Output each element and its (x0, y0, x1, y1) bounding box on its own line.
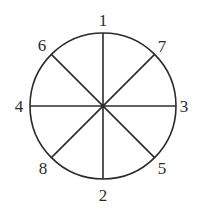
label-bottom-right: 5 (158, 159, 167, 178)
sector-circle-diagram: 1 7 3 5 2 8 4 6 (0, 0, 198, 211)
label-bottom: 2 (99, 186, 108, 205)
label-left: 4 (15, 97, 24, 116)
label-right: 3 (180, 97, 189, 116)
center-point (101, 104, 105, 108)
label-bottom-left: 8 (39, 159, 48, 178)
label-top-left: 6 (38, 36, 47, 55)
label-top: 1 (99, 11, 108, 30)
label-top-right: 7 (158, 37, 167, 56)
